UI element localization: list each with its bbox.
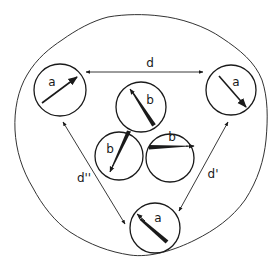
tapered-arrow-icon (149, 145, 188, 150)
distance-d: d (86, 56, 203, 72)
circle-label-b: b (106, 142, 114, 156)
outer-circle-bottom: a (130, 203, 180, 253)
distance-label-d-double-prime: d'' (77, 171, 91, 185)
inner-circle-bottom-left: b (95, 131, 143, 181)
tapered-arrow-icon (112, 131, 131, 168)
distance-label-d: d (146, 56, 154, 70)
inner-circle-top: b (116, 82, 166, 132)
distance-label-d-prime: d' (208, 167, 219, 181)
distance-d-prime: d' (179, 122, 228, 211)
circle-label-a: a (48, 75, 55, 89)
arrowhead-icon (110, 165, 113, 172)
distance-d-double-prime: d'' (63, 122, 125, 224)
circle-label-b: b (168, 130, 176, 144)
inner-circle-bottom-right: b (146, 130, 194, 182)
double-arrow-icon (179, 122, 228, 211)
circle-label-a: a (154, 211, 161, 225)
arrowhead-icon (130, 89, 135, 96)
radius-arrow-icon (42, 77, 77, 103)
cell-diagram: d d'' d' a a a b b (0, 0, 279, 268)
double-arrow-icon (63, 122, 125, 224)
outer-circle-left: a (34, 64, 86, 116)
outer-circle-right: a (206, 65, 256, 115)
circle-label-b: b (146, 93, 154, 107)
circle-label-a: a (232, 75, 239, 89)
